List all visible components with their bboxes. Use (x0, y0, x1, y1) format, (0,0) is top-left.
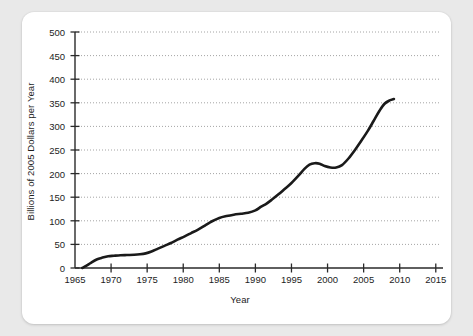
plot-area (0, 0, 473, 336)
x-tick-label: 2005 (344, 274, 384, 285)
y-tick-label: 0 (39, 263, 65, 274)
y-tick-label: 300 (39, 121, 65, 132)
y-axis-title: Billions of 2005 Dollars per Year (25, 52, 36, 252)
y-tick-label: 350 (39, 97, 65, 108)
chart-screenshot: 050100150200250300350400450500 196519701… (0, 0, 473, 336)
x-tick-label: 1990 (235, 274, 275, 285)
y-tick-label: 450 (39, 50, 65, 61)
x-tick-label: 1975 (127, 274, 167, 285)
data-line-series-spending (82, 99, 394, 268)
y-tick-label: 250 (39, 145, 65, 156)
y-tick-label: 500 (39, 27, 65, 38)
x-tick-label: 1970 (91, 274, 131, 285)
line-chart-figure: 050100150200250300350400450500 196519701… (0, 0, 473, 336)
x-tick-label: 1985 (199, 274, 239, 285)
x-tick-label: 2010 (380, 274, 420, 285)
y-tick-label: 200 (39, 168, 65, 179)
x-axis-title: Year (160, 294, 320, 305)
gridlines-group (75, 32, 441, 244)
x-tick-label: 1980 (163, 274, 203, 285)
y-tick-label: 50 (39, 239, 65, 250)
y-tick-label: 150 (39, 192, 65, 203)
x-tick-label: 2000 (308, 274, 348, 285)
y-tick-label: 400 (39, 74, 65, 85)
y-tick-label: 100 (39, 215, 65, 226)
x-tick-label: 2015 (416, 274, 456, 285)
x-tick-label: 1965 (55, 274, 95, 285)
x-tick-label: 1995 (271, 274, 311, 285)
